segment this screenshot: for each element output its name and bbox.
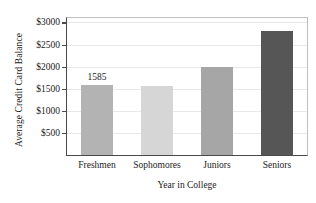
y-axis-title: Average Credit Card Balance — [14, 10, 24, 170]
y-axis-tick — [62, 89, 67, 90]
y-axis-tick — [62, 22, 67, 23]
y-axis-tick — [62, 67, 67, 68]
y-axis-tick-label: $500 — [41, 128, 60, 138]
x-axis-title: Year in College — [66, 180, 308, 190]
bar-chart-figure: Average Credit Card Balance $500$1000$15… — [0, 0, 316, 203]
x-axis-tick-label: Sophomores — [133, 160, 181, 170]
bar-value-label: 1585 — [87, 72, 106, 82]
y-axis-tick-label: $2500 — [36, 40, 60, 50]
bar: Sophomores — [141, 86, 174, 155]
y-axis-tick — [62, 111, 67, 112]
y-axis-tick-label: $1500 — [36, 84, 60, 94]
plot-area: $500$1000$1500$2000$2500$30001585Freshme… — [66, 17, 308, 156]
y-axis-tick — [62, 133, 67, 134]
y-axis-tick-label: $1000 — [36, 106, 60, 116]
bar: 1585Freshmen — [81, 85, 114, 155]
y-gridline — [67, 22, 307, 23]
bar: Seniors — [261, 31, 294, 155]
x-axis-tick-label: Freshmen — [78, 160, 115, 170]
bar: Juniors — [201, 67, 234, 155]
x-axis-tick-label: Seniors — [263, 160, 292, 170]
y-axis-tick-label: $3000 — [36, 17, 60, 27]
x-axis-tick-label: Juniors — [203, 160, 230, 170]
y-axis-tick-label: $2000 — [36, 62, 60, 72]
y-axis-tick — [62, 45, 67, 46]
